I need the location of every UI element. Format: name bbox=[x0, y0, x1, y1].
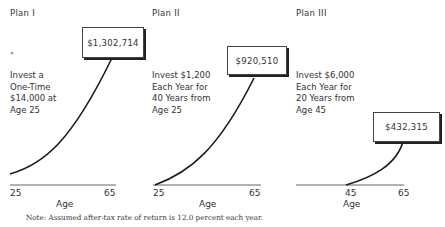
plan-3-tick-left: 45 bbox=[345, 188, 356, 198]
plan-2-tick-left: 25 bbox=[153, 188, 164, 198]
plan-1-axis-label: Age bbox=[56, 199, 73, 209]
stray-mark: " bbox=[10, 52, 14, 61]
plan-3-growth-curve bbox=[346, 138, 404, 185]
plan-1-tick-left: 25 bbox=[10, 188, 21, 198]
plan-3-tick-right: 65 bbox=[398, 188, 409, 198]
plan-1-value-box: $1,302,714 bbox=[82, 27, 144, 58]
plan-1-description: Invest a One-Time $14,000 at Age 25 bbox=[10, 70, 56, 116]
plan-3-title: Plan III bbox=[296, 8, 327, 18]
plan-2-value-box: $920,510 bbox=[227, 46, 287, 75]
plan-2-description: Invest $1,200 Each Year for 40 Years fro… bbox=[152, 70, 210, 116]
plan-1-title: Plan I bbox=[10, 8, 35, 18]
plan-2-tick-right: 65 bbox=[249, 188, 260, 198]
plan-2-axis-label: Age bbox=[199, 199, 216, 209]
plan-2-title: Plan II bbox=[152, 8, 180, 18]
plan-1-tick-right: 65 bbox=[104, 188, 115, 198]
plan-3-value-box: $432,315 bbox=[373, 112, 440, 142]
footnote: Note: Assumed after-tax rate of return i… bbox=[26, 213, 263, 222]
plan-3-axis-label: Age bbox=[343, 199, 360, 209]
plan-3-description: Invest $6,000 Each Year for 20 Years fro… bbox=[296, 70, 354, 116]
